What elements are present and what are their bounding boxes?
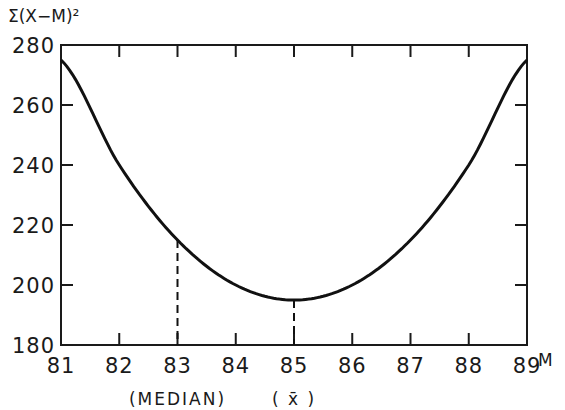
x-tick-label: 86 [338,354,367,378]
y-axis-title: Σ(X−M)² [8,6,79,26]
y-tick-label: 280 [12,34,55,58]
annotation-label: ( x̄ ) [272,389,316,409]
x-tick-label: 84 [221,354,250,378]
data-curve [61,60,527,300]
x-tick-label: 83 [163,354,192,378]
x-tick-label: 82 [105,354,134,378]
y-tick-label: 220 [12,214,55,238]
y-tick-label: 260 [12,94,55,118]
y-tick-label: 240 [12,154,55,178]
x-tick-label: 88 [454,354,483,378]
x-tick-label: 81 [47,354,76,378]
y-tick-label: 200 [12,274,55,298]
chart: Σ(X−M)² 180200220240260280 8182838485868… [0,0,565,410]
annotations: (MEDIAN)( x̄ ) [129,240,316,409]
annotation-label: (MEDIAN) [129,389,226,409]
x-tick-label: 87 [396,354,425,378]
y-axis-ticks: 180200220240260280 [12,34,527,358]
x-tick-label: 85 [280,354,309,378]
x-axis-title: M [538,350,553,370]
